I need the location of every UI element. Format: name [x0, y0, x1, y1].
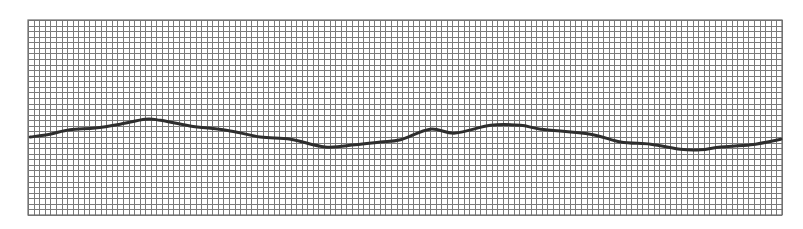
chart [0, 0, 803, 229]
chart-background [0, 0, 803, 229]
